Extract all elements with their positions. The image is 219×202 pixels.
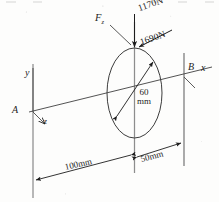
diagram-svg — [0, 0, 219, 202]
force-label-fz-subscript: z — [101, 18, 104, 25]
axis-label-y: y — [25, 68, 29, 78]
support-label-b: B — [188, 62, 194, 72]
force-leader-fz — [110, 25, 131, 45]
diameter-unit: mm — [137, 96, 151, 106]
axis-label-z: z — [44, 118, 47, 126]
diameter-label-60mm: 60mm — [133, 88, 155, 107]
force-label-fz: Fz — [95, 13, 104, 26]
b-axis-tick — [184, 77, 195, 88]
figure-canvas: 1170N 1690N Fz y z x A B 60mm 100mm 50mm — [0, 0, 219, 202]
support-label-a: A — [12, 105, 18, 115]
axis-label-x: x — [201, 63, 205, 73]
